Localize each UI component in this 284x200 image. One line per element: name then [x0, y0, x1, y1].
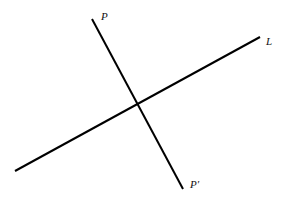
label-p-prime: P′ — [189, 178, 200, 190]
label-l: L — [265, 35, 272, 47]
label-p: P — [100, 10, 108, 22]
diagram-canvas: P L P′ — [0, 0, 284, 200]
diagram-svg: P L P′ — [0, 0, 284, 200]
line-l — [15, 37, 260, 171]
